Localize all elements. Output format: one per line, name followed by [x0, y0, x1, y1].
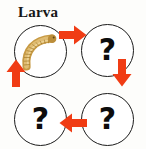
arrow-left-icon	[59, 113, 87, 133]
stage-node-unknown-2[interactable]: ?	[81, 93, 134, 146]
arrow-down-icon	[112, 59, 132, 87]
page-title: Larva	[18, 5, 58, 20]
question-mark-label: ?	[32, 104, 49, 134]
arrow-up-icon	[6, 59, 26, 87]
question-mark-label: ?	[99, 104, 116, 134]
arrow-right-icon	[59, 25, 87, 45]
life-cycle-diagram: Larva	[0, 0, 146, 149]
